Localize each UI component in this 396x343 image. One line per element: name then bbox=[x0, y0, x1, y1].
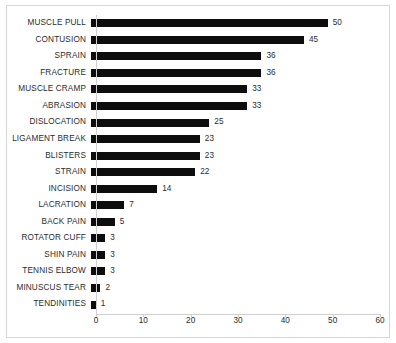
bar-value-label: 22 bbox=[200, 168, 209, 176]
bar-track: 23 bbox=[91, 131, 391, 148]
bar-value-label: 25 bbox=[214, 118, 223, 126]
category-label: ABRASION bbox=[7, 102, 91, 110]
bar-row: BACK PAIN5 bbox=[7, 214, 391, 231]
bar-track: 2 bbox=[91, 280, 391, 297]
bar-row: DISLOCATION25 bbox=[7, 114, 391, 131]
bar bbox=[91, 52, 261, 60]
bar-row: MUSCLE CRAMP33 bbox=[7, 81, 391, 98]
bar-row: SPRAIN36 bbox=[7, 48, 391, 65]
bar-value-label: 3 bbox=[110, 234, 115, 242]
bar-value-label: 50 bbox=[333, 19, 342, 27]
bar-value-label: 23 bbox=[205, 152, 214, 160]
bar bbox=[91, 168, 195, 176]
bar-track: 50 bbox=[91, 15, 391, 32]
bar-value-label: 14 bbox=[162, 185, 171, 193]
value-axis-tick-mark bbox=[96, 314, 97, 317]
value-axis-tick: 0 bbox=[94, 317, 99, 325]
bar bbox=[91, 218, 115, 226]
value-axis-tick: 50 bbox=[328, 317, 337, 325]
bar-value-label: 33 bbox=[252, 85, 261, 93]
bar-row: BLISTERS23 bbox=[7, 147, 391, 164]
value-axis-tick: 40 bbox=[281, 317, 290, 325]
bar bbox=[91, 234, 105, 242]
category-label: SHIN PAIN bbox=[7, 251, 91, 259]
bar bbox=[91, 119, 209, 127]
category-axis-line bbox=[96, 15, 97, 314]
value-axis-tick-mark bbox=[285, 314, 286, 317]
category-label: BACK PAIN bbox=[7, 218, 91, 226]
value-axis-tick: 10 bbox=[139, 317, 148, 325]
bar-row: MUSCLE PULL50 bbox=[7, 15, 391, 32]
bar bbox=[91, 102, 247, 110]
bar-track: 5 bbox=[91, 214, 391, 231]
bar-row: STRAIN22 bbox=[7, 164, 391, 181]
bar-row: MINUSCUS TEAR2 bbox=[7, 280, 391, 297]
bar bbox=[91, 251, 105, 259]
bar-track: 45 bbox=[91, 32, 391, 49]
category-label: DISLOCATION bbox=[7, 118, 91, 126]
bar bbox=[91, 267, 105, 275]
bar-value-label: 45 bbox=[309, 36, 318, 44]
bar-track: 25 bbox=[91, 114, 391, 131]
bar-value-label: 2 bbox=[105, 284, 110, 292]
bar-row: FRACTURE36 bbox=[7, 65, 391, 82]
value-axis-tick: 30 bbox=[233, 317, 242, 325]
bar bbox=[91, 301, 96, 309]
bar-track: 36 bbox=[91, 65, 391, 82]
bar bbox=[91, 69, 261, 77]
category-label: LACRATION bbox=[7, 201, 91, 209]
category-label: INCISION bbox=[7, 185, 91, 193]
bar-track: 14 bbox=[91, 180, 391, 197]
bar-row: SHIN PAIN3 bbox=[7, 247, 391, 264]
bar-row: CONTUSION45 bbox=[7, 32, 391, 49]
bar-row: TENNIS ELBOW3 bbox=[7, 263, 391, 280]
bar-value-label: 3 bbox=[110, 267, 115, 275]
category-label: MUSCLE PULL bbox=[7, 19, 91, 27]
bar bbox=[91, 19, 328, 27]
bar bbox=[91, 185, 157, 193]
bar-chart: MUSCLE PULL50CONTUSION45SPRAIN36FRACTURE… bbox=[0, 0, 396, 343]
bar-value-label: 1 bbox=[101, 300, 106, 308]
bar-row: INCISION14 bbox=[7, 180, 391, 197]
bar-track: 3 bbox=[91, 247, 391, 264]
bar-track: 1 bbox=[91, 296, 391, 313]
bar bbox=[91, 85, 247, 93]
bar-track: 7 bbox=[91, 197, 391, 214]
category-label: STRAIN bbox=[7, 168, 91, 176]
category-label: TENNIS ELBOW bbox=[7, 267, 91, 275]
bar-value-label: 3 bbox=[110, 251, 115, 259]
bar-row: LACRATION7 bbox=[7, 197, 391, 214]
bar bbox=[91, 135, 200, 143]
category-label: TENDINITIES bbox=[7, 300, 91, 308]
bar-value-label: 36 bbox=[266, 69, 275, 77]
bar-track: 3 bbox=[91, 263, 391, 280]
value-axis-tick-mark bbox=[238, 314, 239, 317]
value-axis-tick-mark bbox=[333, 314, 334, 317]
value-axis-tick: 20 bbox=[186, 317, 195, 325]
bar-track: 3 bbox=[91, 230, 391, 247]
category-label: SPRAIN bbox=[7, 52, 91, 60]
category-label: CONTUSION bbox=[7, 36, 91, 44]
category-label: MUSCLE CRAMP bbox=[7, 85, 91, 93]
bar-value-label: 23 bbox=[205, 135, 214, 143]
value-axis-tick: 60 bbox=[375, 317, 384, 325]
bar-track: 23 bbox=[91, 147, 391, 164]
bar-row: LIGAMENT BREAK23 bbox=[7, 131, 391, 148]
bar bbox=[91, 152, 200, 160]
bar-track: 22 bbox=[91, 164, 391, 181]
bar-value-label: 33 bbox=[252, 102, 261, 110]
bar-value-label: 7 bbox=[129, 201, 134, 209]
chart-frame: MUSCLE PULL50CONTUSION45SPRAIN36FRACTURE… bbox=[6, 5, 390, 338]
value-axis-tick-mark bbox=[191, 314, 192, 317]
bar-track: 36 bbox=[91, 48, 391, 65]
bar-track: 33 bbox=[91, 98, 391, 115]
bar-track: 33 bbox=[91, 81, 391, 98]
category-label: ROTATOR CUFF bbox=[7, 234, 91, 242]
bar bbox=[91, 36, 304, 44]
bar-rows-container: MUSCLE PULL50CONTUSION45SPRAIN36FRACTURE… bbox=[7, 15, 391, 313]
bar-row: TENDINITIES1 bbox=[7, 296, 391, 313]
value-axis-tick-mark bbox=[380, 314, 381, 317]
category-label: BLISTERS bbox=[7, 152, 91, 160]
bar-row: ABRASION33 bbox=[7, 98, 391, 115]
category-label: LIGAMENT BREAK bbox=[7, 135, 91, 143]
